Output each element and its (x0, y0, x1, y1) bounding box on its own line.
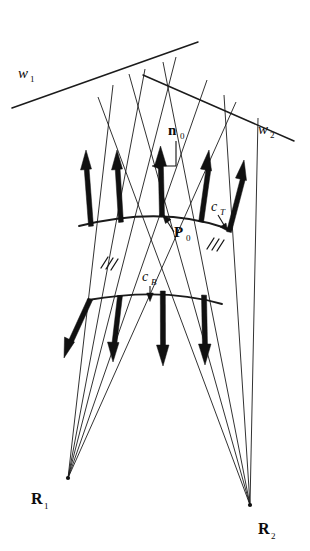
label-R2: R 2 (258, 520, 276, 541)
radiant-point-1 (66, 476, 70, 480)
reflected-arrow-4 (199, 295, 212, 365)
label-P0: P 0 (174, 224, 191, 243)
ray-R2-2 (129, 74, 250, 505)
ray-R1-1 (68, 85, 113, 478)
ray-R1-5 (68, 102, 236, 478)
label-w2-sub: 2 (270, 130, 275, 140)
label-n0-sub: 0 (180, 131, 185, 141)
ray-R1-2 (68, 69, 145, 478)
label-w2-base: w (258, 121, 268, 137)
label-R2-sub: 2 (271, 531, 276, 541)
normal-arrow-3 (155, 146, 167, 217)
label-n0-base: n (168, 122, 177, 138)
ray-family-R2 (98, 62, 258, 505)
normal-arrow-5 (227, 160, 247, 233)
label-cB-sub: B (151, 277, 157, 287)
ray-family-R1 (68, 57, 236, 478)
normal-arrow-1 (81, 150, 94, 227)
label-P0-base: P (174, 224, 183, 240)
ray-R2-4 (224, 95, 250, 505)
equal-angle-hatch-right (207, 238, 224, 251)
curve-cT (79, 216, 229, 229)
reflected-arrow-1 (64, 298, 93, 358)
label-cB-base: c (142, 269, 149, 284)
label-R1-sub: 1 (44, 501, 49, 511)
ray-R1-3 (68, 57, 176, 478)
down-arrow-group (64, 291, 211, 366)
radiant-point-2 (248, 503, 252, 507)
label-cB: c B (142, 269, 157, 287)
reflected-arrow-3 (157, 291, 170, 366)
figure-root: w 1 w 2 n 0 P 0 c T c B R 1 R 2 (0, 0, 310, 551)
label-w1-sub: 1 (30, 74, 35, 84)
label-cT: c T (211, 199, 226, 217)
label-cT-sub: T (220, 207, 226, 217)
label-P0-sub: 0 (186, 233, 191, 243)
label-cT-base: c (211, 199, 218, 214)
label-w1: w 1 (18, 65, 35, 84)
label-R1-base: R (31, 490, 43, 507)
label-R2-base: R (258, 520, 270, 537)
normal-arrow-4 (199, 150, 212, 222)
ray-wavefront-diagram: w 1 w 2 n 0 P 0 c T c B R 1 R 2 (0, 0, 310, 551)
leader-cT (218, 215, 228, 231)
ray-R2-5 (250, 118, 258, 505)
label-R1: R 1 (31, 490, 49, 511)
label-w2: w 2 (258, 121, 275, 140)
label-w1-base: w (18, 65, 28, 81)
